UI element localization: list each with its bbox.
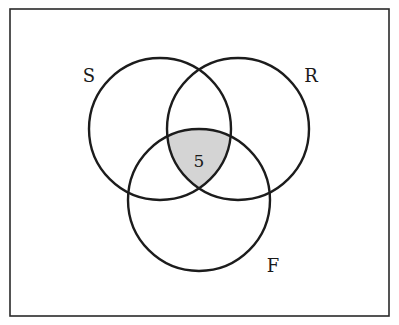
intersection-value: 5 (194, 151, 205, 171)
set-label-r: R (304, 65, 318, 86)
set-label-f: F (267, 255, 280, 276)
set-label-s: S (83, 65, 95, 86)
venn-diagram: S R F 5 (0, 0, 399, 325)
